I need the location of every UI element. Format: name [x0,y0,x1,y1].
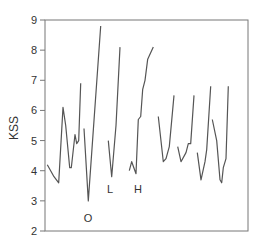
kss-segment-4 [129,47,153,174]
kss-segment-2 [84,26,101,201]
plot-frame [45,20,248,231]
y-tick-label: 5 [31,135,37,147]
annotation-h: H [134,183,142,195]
kss-segment-3 [108,47,120,177]
annotation-o: O [84,212,93,224]
kss-segment-6 [178,95,194,161]
kss-segment-5 [158,95,174,161]
kss-line-chart: 23456789 KSS O L H [0,0,261,243]
y-tick-label: 6 [31,104,37,116]
y-axis-ticks: 23456789 [31,14,45,237]
y-tick-label: 3 [31,195,37,207]
kss-segment-8 [212,86,228,183]
y-tick-label: 2 [31,225,37,237]
annotation-l: L [107,183,113,195]
kss-segment-1 [47,83,80,183]
y-tick-label: 9 [31,14,37,26]
y-tick-label: 7 [31,74,37,86]
y-tick-label: 8 [31,44,37,56]
data-lines [47,26,228,201]
kss-segment-7 [197,86,210,180]
y-axis-title: KSS [7,116,21,140]
y-tick-label: 4 [31,165,37,177]
